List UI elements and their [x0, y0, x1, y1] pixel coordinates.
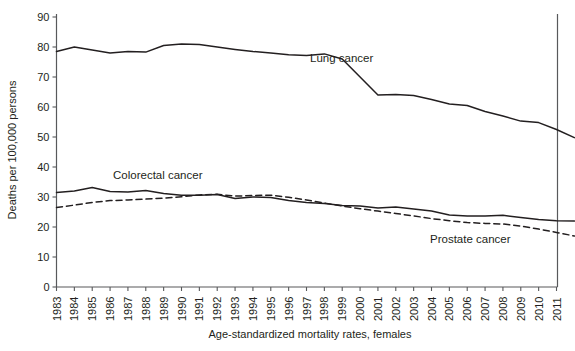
y-tick-label: 40: [37, 161, 49, 173]
y-tick-label: 10: [37, 251, 49, 263]
x-tick-label: 1993: [229, 297, 241, 321]
x-tick-label: 2004: [426, 297, 438, 321]
x-tick-label: 1996: [283, 297, 295, 321]
x-tick-label: 1986: [104, 297, 116, 321]
x-tick-label: 2000: [354, 297, 366, 321]
annotation-lung-cancer: Lung cancer: [310, 52, 373, 64]
x-axis-title: Age-standardized mortality rates, female…: [209, 328, 412, 340]
x-tick-label: 1997: [301, 297, 313, 321]
annotation-prostate-cancer: Prostate cancer: [430, 233, 511, 245]
x-tick-label: 2005: [443, 297, 455, 321]
y-tick-label: 90: [37, 11, 49, 23]
x-tick-label: 2001: [372, 297, 384, 321]
x-tick-label: 1985: [86, 297, 98, 321]
x-tick-label: 1991: [193, 297, 205, 321]
x-tick-label: 1998: [318, 297, 330, 321]
x-tick-label: 1999: [336, 297, 348, 321]
series-annotations: Lung cancerColorectal cancerProstate can…: [113, 52, 511, 245]
y-tick-label: 0: [43, 281, 49, 293]
series-lines: [57, 44, 575, 236]
chart-figure: 0102030405060708090 19831984198519861987…: [0, 0, 575, 351]
x-axis: 1983198419851986198719881989199019911992…: [51, 14, 563, 321]
x-tick-label: 1983: [51, 297, 63, 321]
x-tick-label: 1988: [140, 297, 152, 321]
x-tick-label: 1994: [247, 297, 259, 321]
y-axis: 0102030405060708090: [37, 11, 56, 293]
x-tick-label: 1992: [211, 297, 223, 321]
series-line-colorectal-cancer: [57, 187, 575, 221]
x-tick-label: 1989: [158, 297, 170, 321]
x-tick-label: 1995: [265, 297, 277, 321]
annotation-colorectal-cancer: Colorectal cancer: [113, 169, 203, 181]
x-tick-label: 2008: [497, 297, 509, 321]
x-tick-label: 2009: [515, 297, 527, 321]
y-tick-label: 80: [37, 41, 49, 53]
x-tick-label: 2006: [461, 297, 473, 321]
x-tick-label: 1987: [122, 297, 134, 321]
line-chart: 0102030405060708090 19831984198519861987…: [0, 0, 575, 351]
y-tick-label: 50: [37, 131, 49, 143]
x-tick-label: 2007: [479, 297, 491, 321]
x-tick-label: 2002: [390, 297, 402, 321]
x-tick-label: 1984: [68, 297, 80, 321]
x-tick-label: 2010: [533, 297, 545, 321]
y-axis-title: Deaths per 100,000 persons: [6, 80, 18, 219]
y-tick-label: 20: [37, 221, 49, 233]
y-tick-label: 60: [37, 101, 49, 113]
y-tick-label: 30: [37, 191, 49, 203]
x-tick-label: 2003: [408, 297, 420, 321]
x-tick-label: 1990: [176, 297, 188, 321]
y-tick-label: 70: [37, 71, 49, 83]
x-tick-label: 2011: [551, 297, 563, 321]
